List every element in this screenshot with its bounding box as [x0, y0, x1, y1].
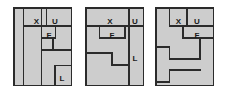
piece-label-u: U — [132, 17, 138, 26]
piece-label-u: U — [52, 17, 58, 26]
piece-label-x: X — [34, 17, 40, 26]
piece-label-f: F — [47, 31, 52, 40]
piece-label-l: L — [60, 74, 65, 83]
piece-label-l: L — [133, 54, 138, 63]
puzzle-panel-1: XUFL — [13, 7, 72, 86]
piece-label-f: F — [110, 31, 115, 40]
pentomino-figure: XUFLXUFLXUF — [0, 0, 227, 96]
puzzle-panel-2: XUFL — [85, 7, 144, 86]
piece-label-f: F — [195, 31, 200, 40]
piece-label-x: X — [107, 17, 113, 26]
puzzle-panel-3: XUF — [155, 7, 214, 86]
piece-label-x: X — [176, 17, 182, 26]
piece-label-u: U — [194, 17, 200, 26]
